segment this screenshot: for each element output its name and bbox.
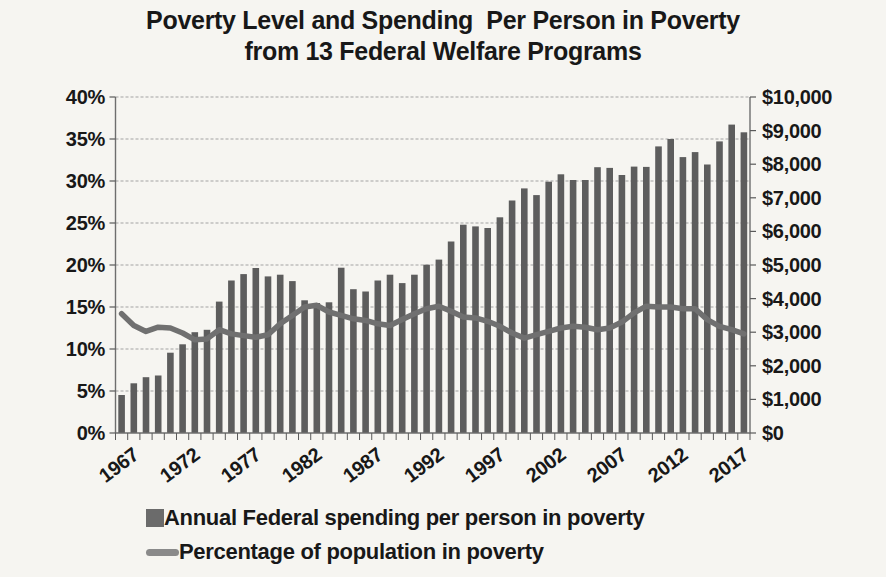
spending-bar — [655, 146, 662, 433]
y-axis-left-tick-label: 30% — [0, 168, 105, 194]
y-axis-left-tick-label: 15% — [0, 294, 105, 320]
spending-bar — [179, 344, 186, 433]
spending-bar — [216, 302, 223, 433]
spending-bar — [606, 168, 613, 433]
spending-bar — [728, 125, 735, 433]
spending-bar — [448, 242, 455, 434]
spending-bar — [350, 289, 357, 433]
spending-bar — [411, 275, 418, 433]
spending-bar — [362, 292, 369, 434]
spending-bar — [289, 281, 296, 433]
spending-bar — [582, 180, 589, 433]
spending-bar — [521, 188, 528, 433]
y-axis-left-tick-label: 40% — [0, 84, 105, 110]
spending-bar — [277, 275, 284, 433]
spending-bar — [680, 157, 687, 433]
spending-bar — [436, 260, 443, 433]
spending-bar — [716, 141, 723, 433]
bar-series-swatch-icon — [146, 509, 164, 527]
spending-bar — [253, 268, 260, 433]
spending-bar — [631, 167, 638, 433]
chart-legend: Annual Federal spending per person in po… — [146, 501, 644, 569]
y-axis-left-tick-label: 5% — [0, 378, 105, 404]
y-axis-right-tick-label: $1,000 — [762, 386, 821, 412]
spending-bar — [667, 139, 674, 433]
spending-bar — [399, 283, 406, 433]
spending-bar — [131, 383, 138, 433]
legend-label-spending: Annual Federal spending per person in po… — [164, 505, 644, 531]
y-axis-right-tick-label: $8,000 — [762, 151, 821, 177]
spending-bar — [423, 265, 430, 433]
spending-bar — [387, 275, 394, 433]
y-axis-left-tick-label: 10% — [0, 336, 105, 362]
spending-bar — [704, 165, 711, 434]
spending-bar — [472, 226, 479, 433]
spending-bar — [741, 132, 748, 433]
spending-bar — [314, 303, 321, 433]
y-axis-left-tick-label: 25% — [0, 210, 105, 236]
spending-bar — [460, 225, 467, 433]
y-axis-right-tick-label: $9,000 — [762, 118, 821, 144]
spending-bar — [143, 377, 150, 433]
spending-bar — [545, 182, 552, 433]
spending-bar — [619, 175, 626, 433]
chart-canvas: Poverty Level and Spending Per Person in… — [0, 0, 886, 577]
spending-bar — [301, 300, 308, 433]
spending-bar — [167, 353, 174, 433]
spending-bar — [240, 274, 247, 433]
y-axis-left-tick-label: 0% — [0, 420, 105, 446]
spending-bar — [570, 180, 577, 433]
spending-bar — [118, 395, 125, 433]
y-axis-right-tick-label: $10,000 — [762, 84, 832, 110]
spending-bar — [558, 174, 565, 433]
spending-bar — [375, 281, 382, 434]
y-axis-right-tick-label: $3,000 — [762, 319, 821, 345]
line-series-swatch-icon — [146, 549, 179, 556]
spending-bar — [228, 281, 235, 434]
legend-row-poverty-rate: Percentage of population in poverty — [146, 535, 644, 569]
spending-bar — [204, 330, 211, 433]
y-axis-right-tick-label: $0 — [762, 420, 784, 446]
chart-plot-area — [0, 0, 886, 577]
y-axis-right-tick-label: $2,000 — [762, 353, 821, 379]
y-axis-right-tick-label: $4,000 — [762, 286, 821, 312]
spending-bar — [594, 167, 601, 433]
spending-bar — [643, 167, 650, 433]
legend-row-spending: Annual Federal spending per person in po… — [146, 501, 644, 535]
spending-bar — [692, 152, 699, 433]
spending-bar — [338, 268, 345, 433]
spending-bar — [265, 276, 272, 433]
spending-bar — [484, 228, 491, 433]
spending-bar — [326, 302, 333, 433]
y-axis-right-tick-label: $5,000 — [762, 252, 821, 278]
y-axis-left-tick-label: 35% — [0, 126, 105, 152]
spending-bar — [192, 332, 199, 433]
y-axis-right-tick-label: $7,000 — [762, 185, 821, 211]
y-axis-left-tick-label: 20% — [0, 252, 105, 278]
legend-label-poverty-rate: Percentage of population in poverty — [179, 539, 544, 565]
y-axis-right-tick-label: $6,000 — [762, 218, 821, 244]
spending-bar — [155, 376, 162, 434]
spending-bar — [533, 195, 540, 433]
poverty-rate-line — [122, 305, 744, 340]
spending-bar — [509, 201, 516, 434]
